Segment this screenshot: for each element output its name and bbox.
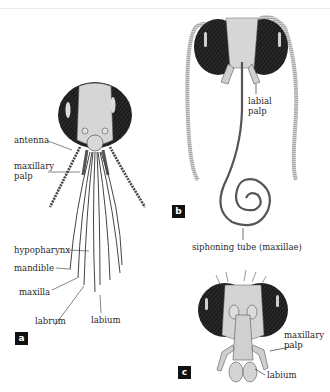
label-maxillary-palp-c-line2: palp xyxy=(284,340,303,350)
label-maxillary-palp-a-line2: palp xyxy=(14,171,33,181)
panel-tag-c: c xyxy=(178,366,191,379)
label-mandible: mandible xyxy=(14,263,54,273)
label-antenna: antenna xyxy=(14,135,49,145)
label-maxilla: maxilla xyxy=(19,287,50,297)
label-hypopharynx: hypopharynx xyxy=(14,245,70,255)
panel-tag-b: b xyxy=(172,205,185,218)
label-maxillary-palp-a-line1: maxillary xyxy=(14,161,54,171)
label-labrum: labrum xyxy=(35,316,66,326)
label-labial-palp-line2: palp xyxy=(248,106,267,116)
panel-c-housefly xyxy=(198,270,290,382)
label-maxillary-palp-c-line1: maxillary xyxy=(284,330,324,340)
panel-b-butterfly xyxy=(187,17,296,240)
label-labium-a: labium xyxy=(91,315,120,325)
panel-a-mosquito xyxy=(48,82,145,325)
label-labial-palp-line1: labial xyxy=(248,96,272,106)
label-siphoning-tube: siphoning tube (maxillae) xyxy=(192,242,302,252)
label-labium-c: labium xyxy=(267,370,296,380)
mouthparts-illustration xyxy=(0,0,330,392)
panel-tag-a: a xyxy=(15,332,28,345)
